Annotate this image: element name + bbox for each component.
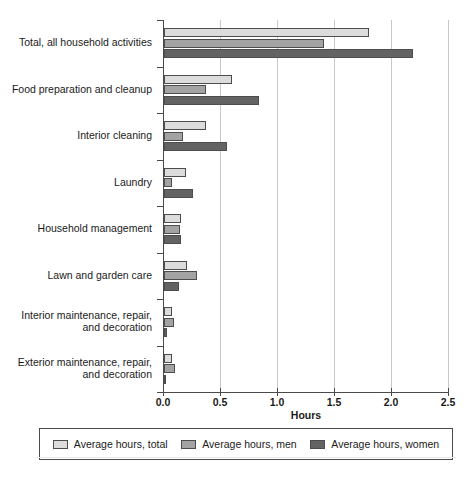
x-tick-label: 1.0 xyxy=(270,396,285,408)
bar xyxy=(164,225,180,234)
legend-item[interactable]: Average hours, total xyxy=(53,438,168,450)
bar xyxy=(164,282,179,291)
bar xyxy=(164,375,166,384)
legend-item[interactable]: Average hours, men xyxy=(181,438,296,450)
x-tick-label: 2.0 xyxy=(384,396,399,408)
bar xyxy=(164,354,172,363)
bar xyxy=(164,28,369,37)
x-tick-label: 2.5 xyxy=(441,396,456,408)
category-label: Interior cleaning xyxy=(0,129,152,141)
bar xyxy=(164,85,206,94)
bar xyxy=(164,132,183,141)
x-tick xyxy=(391,388,392,396)
bar xyxy=(164,178,172,187)
category-label: Household management xyxy=(0,222,152,234)
legend-label: Average hours, women xyxy=(331,438,439,450)
x-tick xyxy=(277,388,278,396)
x-tick-label: 0.0 xyxy=(156,396,171,408)
legend-label: Average hours, total xyxy=(74,438,168,450)
category-label: Interior maintenance, repair, and decora… xyxy=(0,309,152,333)
bar xyxy=(164,214,181,223)
x-axis-title: Hours xyxy=(163,409,449,421)
gridline xyxy=(391,20,392,392)
artifact-bottom-left xyxy=(12,463,202,475)
x-tick xyxy=(220,388,221,396)
gridline xyxy=(448,20,449,392)
legend-swatch xyxy=(53,440,68,449)
bar xyxy=(164,364,175,373)
x-tick-label: 1.5 xyxy=(327,396,342,408)
legend-swatch xyxy=(181,440,196,449)
bar xyxy=(164,39,324,48)
legend-label: Average hours, men xyxy=(202,438,296,450)
category-label: Food preparation and cleanup xyxy=(0,83,152,95)
bar xyxy=(164,307,172,316)
household-activities-bar-chart: Total, all household activitiesFood prep… xyxy=(0,0,467,479)
bar xyxy=(164,189,193,198)
category-label: Exterior maintenance, repair, and decora… xyxy=(0,356,152,380)
legend-item[interactable]: Average hours, women xyxy=(310,438,439,450)
bar xyxy=(164,235,181,244)
category-label: Laundry xyxy=(0,176,152,188)
x-tick xyxy=(448,388,449,396)
bar xyxy=(164,49,413,58)
page-rule xyxy=(36,457,456,458)
x-tick xyxy=(163,388,164,396)
bar xyxy=(164,318,174,327)
x-axis-line xyxy=(163,392,449,393)
artifact-top-right xyxy=(289,1,459,11)
y-axis-line xyxy=(163,20,164,392)
bar xyxy=(164,75,232,84)
x-tick xyxy=(334,388,335,396)
bar xyxy=(164,96,259,105)
legend-swatch xyxy=(310,440,325,449)
legend-items: Average hours, totalAverage hours, menAv… xyxy=(40,429,452,459)
plot-wrap: Total, all household activitiesFood prep… xyxy=(0,0,467,420)
category-label: Lawn and garden care xyxy=(0,269,152,281)
bar xyxy=(164,271,197,280)
bar xyxy=(164,261,187,270)
category-label: Total, all household activities xyxy=(0,36,152,48)
legend: Average hours, totalAverage hours, menAv… xyxy=(39,428,453,460)
bar xyxy=(164,142,227,151)
x-tick-label: 0.5 xyxy=(213,396,228,408)
bar xyxy=(164,168,186,177)
bar xyxy=(164,328,167,337)
gridline xyxy=(334,20,335,392)
gridline xyxy=(277,20,278,392)
bar xyxy=(164,121,206,130)
